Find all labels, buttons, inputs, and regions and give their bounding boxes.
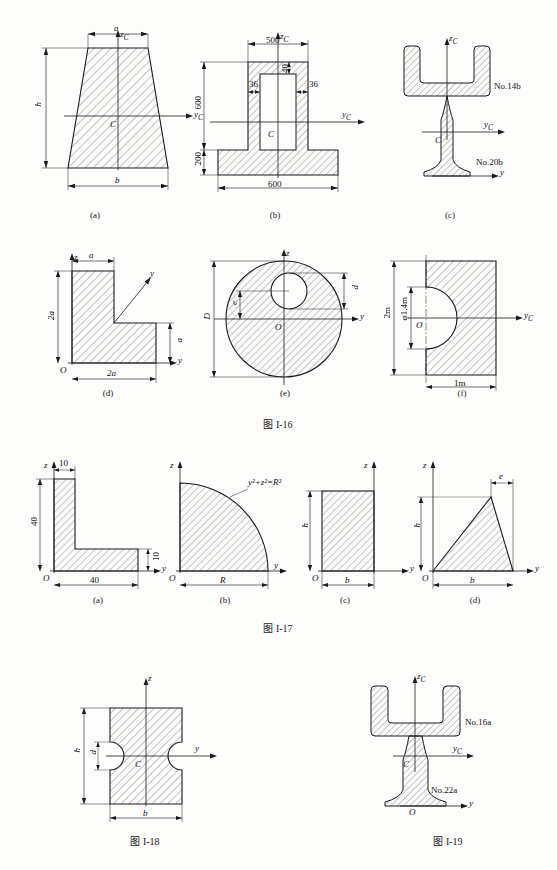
dim-b-label: b: [143, 809, 148, 818]
dim-b-label: b: [470, 576, 475, 585]
axis-y-label: y: [195, 744, 199, 753]
sublabel-I16-f: (f): [442, 388, 482, 398]
origin-label: O: [312, 574, 319, 583]
centroid-label: C: [110, 120, 116, 129]
dim-height-label: h: [34, 102, 43, 107]
dim-40-label: 40: [281, 64, 290, 73]
dim-D-label: D: [203, 313, 212, 320]
origin-label: O: [416, 321, 423, 330]
axis-y-label: yC: [342, 110, 351, 121]
axis-yc-label: yC: [484, 120, 493, 131]
sublabel-I17-d: (d): [455, 595, 495, 605]
sublabel-I16-e: (e): [265, 388, 305, 398]
dim-d-label: d: [89, 750, 98, 755]
axis-yc-label: yC: [453, 744, 462, 755]
axis-y-label: y: [500, 168, 504, 177]
axis-z-label: z: [286, 249, 290, 258]
axis-z-label: zC: [280, 32, 289, 43]
dim-h-label: h: [413, 523, 422, 528]
figure-I16-f: yC O 2m φ1.4m 1m: [378, 235, 553, 395]
origin-label: O: [60, 366, 67, 375]
dim-10-top-label: 10: [59, 459, 68, 468]
dim-40-bottom-label: 40: [90, 576, 99, 585]
dim-a-right-label: a: [175, 338, 184, 343]
origin-label: O: [169, 574, 176, 583]
figure-page: zC yC C a b h: [0, 0, 557, 870]
dim-2a-bottom-label: 2a: [107, 369, 116, 378]
quarter-circle-outline: [180, 483, 268, 571]
axis-y-label: y: [360, 312, 364, 321]
rectangle-outline: [322, 491, 374, 571]
axis-z-label: z: [423, 461, 427, 470]
sublabel-I16-c: (c): [430, 210, 470, 220]
axis-yc-label: yC: [524, 311, 533, 322]
axis-z-label: z: [364, 461, 368, 470]
axis-z-label: zC: [449, 34, 458, 45]
axis-z-label: z: [44, 461, 48, 470]
dim-200-label: 200: [194, 152, 203, 166]
sublabel-I17-b: (b): [205, 595, 245, 605]
figure-I16-e: z y O D d e: [196, 235, 381, 395]
sublabel-I16-a: (a): [75, 210, 115, 220]
figure-I17-b: z y O y²+z²=R² R: [162, 445, 322, 595]
dim-1m-label: 1m: [454, 379, 466, 388]
axis-z-label: zC: [120, 30, 129, 41]
channel-spec-label: No.14b: [494, 82, 521, 91]
axis-y-label: y: [535, 564, 539, 573]
dim-b-label: b: [345, 576, 350, 585]
sublabel-I16-b: (b): [255, 210, 295, 220]
sublabel-I16-d: (d): [88, 388, 128, 398]
sublabel-I17-c: (c): [325, 595, 365, 605]
triangle-outline: [433, 497, 513, 571]
axis-z-label: z: [74, 253, 78, 262]
figure-I16-d: z y y O a 2a a 2a: [22, 235, 202, 395]
figure-I16-b: zC yC C 500 600 200 600 40 36 36: [190, 20, 375, 200]
figure-I17-a: z y O 10 40 10 40: [22, 445, 172, 595]
equation-leader: [230, 489, 248, 497]
dim-10-right-label: 10: [152, 552, 161, 561]
L-shape-outline: [72, 271, 156, 363]
dim-e-label: e: [499, 472, 503, 481]
dim-600-base-label: 600: [268, 180, 282, 189]
origin-label: O: [422, 574, 429, 583]
origin-label: O: [43, 574, 50, 583]
origin-label: O: [409, 808, 416, 817]
ibeam-spec-label: No.22a: [431, 786, 457, 795]
ibeam-spec-label: No.20b: [476, 158, 503, 167]
channel-section: [371, 686, 460, 736]
axis-z-label: zC: [417, 672, 426, 683]
dim-top-width-label: a: [114, 24, 119, 33]
dim-2m-label: 2m: [383, 307, 392, 319]
caption-I19: 图 I-19: [408, 833, 488, 848]
dim-d-label: d: [351, 285, 360, 290]
axis-y-upper-label: y: [150, 269, 154, 278]
axis-z-label: z: [170, 461, 174, 470]
axis-y-label: y: [274, 561, 278, 570]
centroid-label: C: [135, 760, 141, 769]
origin-label: O: [275, 323, 282, 332]
figure-I19: zC yC y C O No.16a No.22a: [345, 660, 550, 830]
dim-36-left-label: 36: [249, 80, 258, 89]
caption-I16: 图 I-16: [238, 416, 318, 431]
figure-I18: z y C h d b: [62, 660, 262, 830]
caption-I18: 图 I-18: [105, 833, 185, 848]
dim-40-left-label: 40: [30, 517, 39, 526]
curve-equation-label: y²+z²=R²: [248, 478, 281, 487]
axis-y-label: y: [410, 564, 414, 573]
dim-bottom-width-label: b: [115, 176, 120, 185]
sublabel-I17-a: (a): [78, 595, 118, 605]
centroid-label: C: [435, 136, 441, 145]
dim-h-label: h: [301, 523, 310, 528]
axis-y-label: y: [469, 799, 473, 808]
caption-I17: 图 I-17: [238, 620, 318, 635]
axis-y-lower-label: y: [178, 356, 182, 365]
angle-outline: [54, 479, 138, 571]
dim-2a-left-label: 2a: [47, 311, 56, 320]
figure-I17-d: z y O h e b: [415, 445, 555, 595]
centroid-label: C: [268, 130, 274, 139]
ibeam-section: [385, 736, 446, 806]
dim-h-label: h: [73, 748, 82, 753]
dim-600-web-label: 600: [194, 96, 203, 110]
dim-e-label: e: [230, 301, 239, 305]
axis-y-diagonal: [114, 281, 148, 323]
